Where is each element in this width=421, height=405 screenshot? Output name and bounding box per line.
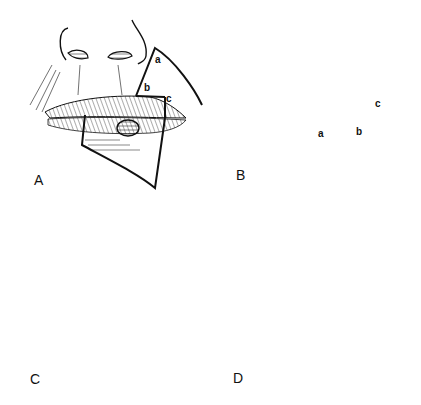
point-b-label-panel-a: b [144, 82, 150, 93]
lesion [117, 120, 139, 136]
point-b-label-panel-b: b [356, 126, 362, 137]
lip-flap-diagram [0, 0, 421, 405]
point-c-label-panel-b: c [375, 98, 381, 109]
panel-a [30, 20, 202, 188]
panel-label-d: D [233, 370, 243, 386]
panel-label-b: B [236, 167, 245, 183]
nostril-left [68, 50, 88, 58]
point-a-label-panel-b: a [318, 128, 324, 139]
panel-label-a: A [34, 172, 43, 188]
nostril-right [108, 52, 132, 60]
point-c-label-panel-a: c [166, 93, 172, 104]
panel-label-c: C [30, 371, 40, 387]
nose-outline [60, 28, 68, 60]
point-a-label-panel-a: a [155, 54, 161, 65]
